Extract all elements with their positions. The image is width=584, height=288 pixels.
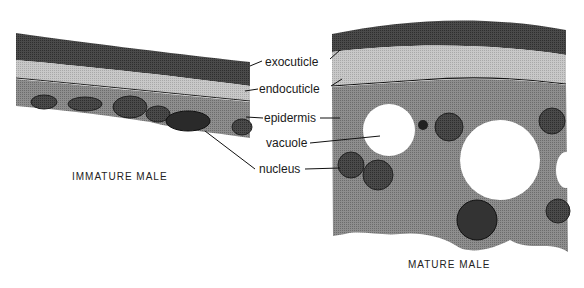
caption-immature: IMMATURE MALE	[72, 171, 168, 182]
label-endocuticle: endocuticle	[259, 82, 320, 96]
cuticle-diagram: exocuticle endocuticle epidermis vacuole…	[0, 0, 584, 288]
nucleus	[113, 96, 147, 118]
vacuole	[363, 104, 415, 156]
nucleus	[418, 120, 428, 130]
vacuole	[460, 120, 540, 200]
label-vacuole: vacuole	[266, 136, 308, 150]
nucleus	[539, 108, 565, 134]
nucleus	[68, 97, 102, 111]
nucleus	[457, 200, 497, 240]
nucleus	[31, 95, 57, 109]
label-epidermis: epidermis	[264, 111, 316, 125]
immature-section	[16, 33, 252, 138]
nucleus	[363, 160, 393, 190]
nucleus	[166, 111, 210, 131]
label-exocuticle: exocuticle	[265, 55, 319, 69]
nucleus	[232, 119, 252, 135]
nucleus	[546, 199, 570, 223]
label-nucleus: nucleus	[259, 162, 300, 176]
nucleus	[435, 113, 463, 141]
caption-mature: MATURE MALE	[408, 259, 491, 270]
nucleus	[338, 152, 364, 178]
mature-section	[332, 20, 576, 252]
